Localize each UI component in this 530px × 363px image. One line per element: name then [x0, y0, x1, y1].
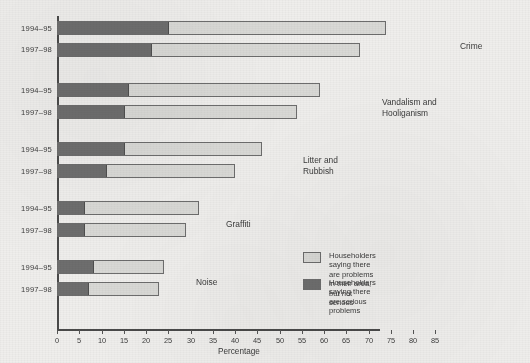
bar-segment-serious — [58, 143, 125, 155]
x-tick — [168, 330, 169, 334]
bar-segment-not-serious — [169, 22, 385, 34]
x-tick — [391, 330, 392, 334]
x-tick-label: 5 — [69, 336, 89, 345]
x-tick — [257, 330, 258, 334]
group-label-vandalism: Vandalism and Hooliganism — [382, 97, 437, 118]
legend-item-serious: Householders saying there are serious pr… — [303, 278, 376, 316]
x-tick-label: 45 — [247, 336, 267, 345]
x-tick — [435, 330, 436, 334]
x-axis-title: Percentage — [218, 347, 298, 356]
bar-segment-not-serious — [129, 84, 318, 96]
legend-label-serious: Householders saying there are serious pr… — [329, 278, 376, 316]
group-label-graffiti: Graffiti — [226, 219, 251, 230]
stacked-bar-chart: 1994–95 1997–98 1994–95 1997–98 1994–95 … — [0, 0, 530, 363]
bar-vandalism-1997-98 — [57, 105, 297, 119]
group-label-noise: Noise — [196, 277, 217, 288]
group-label-line1: Litter and — [303, 155, 338, 165]
bar-segment-not-serious — [94, 261, 163, 273]
bar-segment-not-serious — [107, 165, 234, 177]
x-tick-label: 10 — [92, 336, 112, 345]
x-tick — [280, 330, 281, 334]
bar-segment-serious — [58, 283, 89, 295]
y-tick-label: 1997–98 — [8, 45, 52, 54]
group-label-line2: Rubbish — [303, 166, 334, 176]
x-tick-label: 50 — [270, 336, 290, 345]
x-tick — [102, 330, 103, 334]
bar-graffiti-1994-95 — [57, 201, 199, 215]
bar-segment-not-serious — [85, 202, 199, 214]
bar-segment-serious — [58, 84, 129, 96]
x-tick-label: 70 — [359, 336, 379, 345]
y-tick-label: 1994–95 — [8, 24, 52, 33]
x-tick-label: 20 — [136, 336, 156, 345]
x-tick — [302, 330, 303, 334]
x-tick — [413, 330, 414, 334]
x-tick — [346, 330, 347, 334]
x-tick — [191, 330, 192, 334]
x-tick-label: 55 — [292, 336, 312, 345]
x-tick — [79, 330, 80, 334]
y-tick-label: 1997–98 — [8, 226, 52, 235]
legend-swatch-not-serious-icon — [303, 252, 321, 263]
x-tick — [369, 330, 370, 334]
x-tick-label: 15 — [114, 336, 134, 345]
x-tick-label: 80 — [403, 336, 423, 345]
x-tick — [324, 330, 325, 334]
group-label-line1: Crime — [460, 41, 482, 51]
x-tick — [146, 330, 147, 334]
bar-segment-not-serious — [152, 44, 359, 56]
bar-segment-not-serious — [125, 143, 261, 155]
x-tick-label: 0 — [47, 336, 67, 345]
x-tick-label: 65 — [336, 336, 356, 345]
bar-vandalism-1994-95 — [57, 83, 320, 97]
group-label-litter: Litter and Rubbish — [303, 155, 338, 176]
x-tick — [213, 330, 214, 334]
x-tick-label: 40 — [225, 336, 245, 345]
y-tick-label: 1994–95 — [8, 86, 52, 95]
bar-crime-1997-98 — [57, 43, 360, 57]
bar-segment-serious — [58, 224, 85, 236]
bar-litter-1994-95 — [57, 142, 262, 156]
group-label-line2: Hooliganism — [382, 108, 428, 118]
bar-noise-1994-95 — [57, 260, 164, 274]
x-tick — [235, 330, 236, 334]
x-tick-label: 75 — [381, 336, 401, 345]
y-tick-label: 1997–98 — [8, 108, 52, 117]
y-tick-label: 1994–95 — [8, 263, 52, 272]
bar-segment-not-serious — [85, 224, 185, 236]
bar-graffiti-1997-98 — [57, 223, 186, 237]
group-label-line1: Graffiti — [226, 219, 251, 229]
group-label-line1: Vandalism and — [382, 97, 437, 107]
bar-segment-serious — [58, 202, 85, 214]
bar-segment-not-serious — [89, 283, 158, 295]
group-label-crime: Crime — [460, 41, 482, 52]
y-tick-label: 1997–98 — [8, 285, 52, 294]
y-tick-label: 1994–95 — [8, 145, 52, 154]
y-tick-label: 1994–95 — [8, 204, 52, 213]
x-tick-label: 30 — [181, 336, 201, 345]
x-tick — [57, 330, 58, 334]
bar-segment-serious — [58, 261, 94, 273]
x-tick-label: 60 — [314, 336, 334, 345]
bar-segment-serious — [58, 44, 152, 56]
group-label-line1: Noise — [196, 277, 217, 287]
x-axis-line — [57, 329, 380, 331]
bar-segment-not-serious — [125, 106, 297, 118]
bar-litter-1997-98 — [57, 164, 235, 178]
x-tick — [124, 330, 125, 334]
bar-segment-serious — [58, 165, 107, 177]
bar-segment-serious — [58, 22, 169, 34]
bar-noise-1997-98 — [57, 282, 159, 296]
x-tick-label: 35 — [203, 336, 223, 345]
x-tick-label: 85 — [425, 336, 445, 345]
bar-crime-1994-95 — [57, 21, 386, 35]
bar-segment-serious — [58, 106, 125, 118]
legend-swatch-serious-icon — [303, 279, 321, 290]
y-tick-label: 1997–98 — [8, 167, 52, 176]
x-tick-label: 25 — [158, 336, 178, 345]
